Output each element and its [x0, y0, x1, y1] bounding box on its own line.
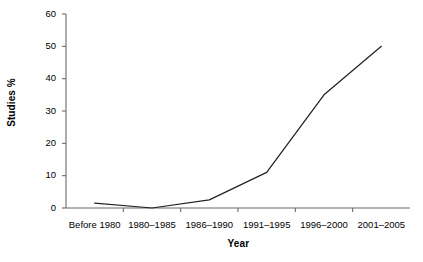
axis-lines [66, 14, 410, 208]
x-axis-ticks [123, 208, 352, 212]
plot-area [0, 0, 423, 262]
data-series-line [95, 46, 382, 208]
y-axis-ticks [62, 14, 66, 208]
x-axis-title: Year [66, 238, 411, 249]
chart-figure: Studies % 0102030405060 Before 19801980–… [0, 0, 423, 262]
x-axis-title-text: Year [228, 238, 250, 249]
